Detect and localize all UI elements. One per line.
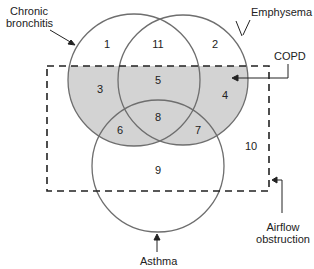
- region-9: 9: [155, 164, 161, 176]
- label-line: obstruction: [254, 233, 312, 245]
- label-line: bronchitis: [6, 17, 48, 29]
- region-4: 4: [222, 89, 228, 101]
- chronic-bronchitis-label: Chronic bronchitis: [6, 5, 48, 29]
- region-1: 1: [104, 38, 110, 50]
- label-line: Airflow: [254, 221, 312, 233]
- asthma-label: Asthma: [140, 255, 177, 267]
- label-line: Chronic: [6, 5, 48, 17]
- region-7: 7: [195, 124, 201, 136]
- region-8: 8: [155, 111, 161, 123]
- airflow-obstruction-label: Airflow obstruction: [254, 221, 312, 245]
- region-10: 10: [245, 140, 257, 152]
- region-2: 2: [212, 38, 218, 50]
- emphysema-label: Emphysema: [251, 6, 312, 18]
- region-5: 5: [155, 74, 161, 86]
- region-3: 3: [97, 83, 103, 95]
- copd-label: COPD: [274, 50, 306, 62]
- region-11: 11: [152, 38, 163, 50]
- region-6: 6: [117, 124, 123, 136]
